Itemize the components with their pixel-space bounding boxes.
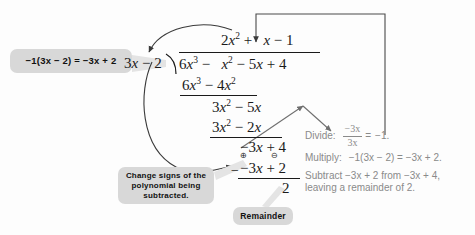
panel-subtract-line-2: leaving a remainder of 2. — [305, 183, 473, 194]
step-row-2: 3x2 − 5x — [212, 98, 261, 116]
step-rule-3 — [238, 178, 300, 179]
panel-divide-result: −1. — [375, 131, 389, 142]
panel-multiply-row: Multiply: −1(3x − 2) = −3x + 2. — [305, 153, 473, 164]
sign-change-plus-icon: ⊕ — [240, 151, 247, 160]
subtract-operator: − — [231, 163, 239, 179]
callout-multiply-result-text: −1(3x − 2) = −3x + 2 — [26, 55, 117, 67]
panel-divide-denominator: 3x — [345, 138, 359, 149]
division-bracket — [165, 53, 179, 75]
callout-change-signs-text: Change signs of the polynomial being sub… — [121, 171, 211, 201]
panel-divide-fraction: −3x 3x — [343, 124, 363, 148]
panel-subtract-line-1: Subtract −3x + 2 from −3x + 4, — [305, 171, 473, 182]
step-row-3: 3x2 − 2x — [212, 118, 261, 136]
panel-multiply-label: Multiply: — [305, 153, 342, 164]
step-rule-1 — [180, 95, 257, 96]
callout-remainder-text: Remainder — [240, 211, 286, 222]
panel-subtract-text-2: leaving a remainder of 2. — [305, 183, 415, 194]
arrow-quotient-to-divisor — [149, 25, 232, 52]
quotient: 2x2 + x − 1 — [221, 31, 294, 49]
panel-divide-label: Divide: — [305, 131, 336, 142]
remainder-value: 2 — [282, 180, 290, 197]
panel-multiply-text: −1(3x − 2) = −3x + 2. — [349, 153, 442, 164]
callout-change-signs: Change signs of the polynomial being sub… — [118, 167, 214, 204]
panel-subtract-text-1: Subtract −3x + 2 from −3x + 4, — [305, 171, 440, 182]
callout-multiply-result: −1(3x − 2) = −3x + 2 — [10, 49, 132, 73]
step-row-1: 6x3 − 4x2 — [182, 76, 236, 94]
sign-change-minus-icon: ⊖ — [271, 151, 278, 160]
explanation-panel: Divide: −3x 3x = −1. Multiply: −1(3x − 2… — [305, 124, 473, 199]
division-vinculum — [179, 52, 320, 53]
panel-divide-numerator: −3x — [343, 124, 363, 135]
divisor: 3x − 2 — [124, 55, 162, 72]
panel-divide-row: Divide: −3x 3x = −1. — [305, 124, 473, 148]
callout-remainder: Remainder — [233, 207, 293, 225]
step-row-5: −3x + 2 — [240, 160, 286, 177]
diagram-root: −1(3x − 2) = −3x + 2 3x − 2 6x3 − x2 − 5… — [0, 0, 475, 235]
panel-divide-equals: = — [365, 131, 371, 142]
dividend: 6x3 − x2 − 5x + 4 — [179, 55, 286, 73]
